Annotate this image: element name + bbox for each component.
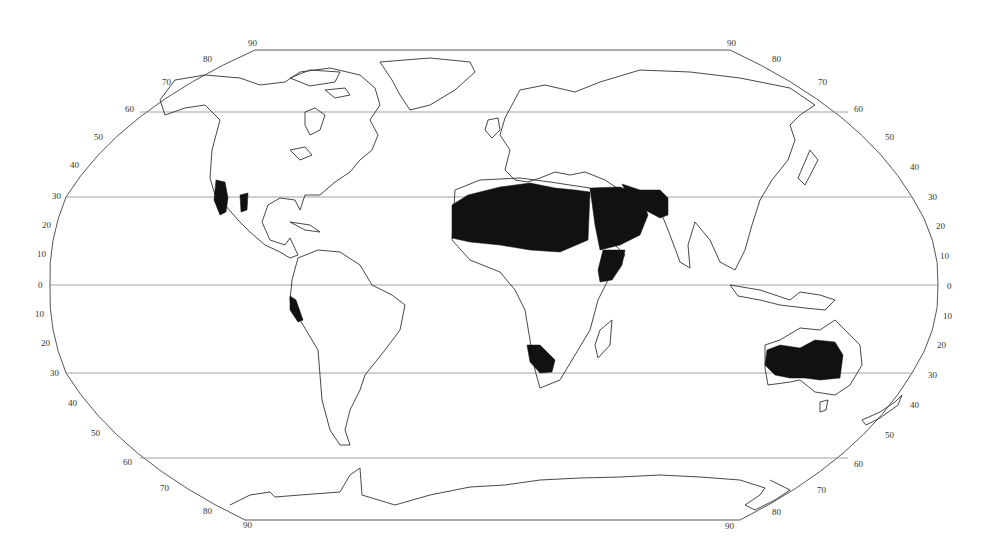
svg-text:80: 80 xyxy=(772,507,782,517)
svg-text:40: 40 xyxy=(70,160,80,170)
svg-text:20: 20 xyxy=(936,221,946,231)
world-map: 90 80 70 60 50 40 30 20 10 0 10 20 30 40… xyxy=(0,0,986,556)
region-sahara xyxy=(452,183,590,252)
svg-text:40: 40 xyxy=(910,400,920,410)
svg-text:20: 20 xyxy=(937,340,947,350)
svg-text:20: 20 xyxy=(42,220,52,230)
svg-text:10: 10 xyxy=(940,251,950,261)
region-chihuahuan xyxy=(240,193,248,212)
coast-greenland xyxy=(380,58,475,110)
svg-text:70: 70 xyxy=(160,483,170,493)
svg-text:30: 30 xyxy=(928,370,938,380)
svg-text:80: 80 xyxy=(203,54,213,64)
svg-text:0: 0 xyxy=(947,281,952,291)
coastlines xyxy=(160,58,902,510)
svg-text:40: 40 xyxy=(910,162,920,172)
region-australia xyxy=(765,340,843,380)
svg-text:90: 90 xyxy=(725,521,735,531)
region-kalahari xyxy=(527,345,555,373)
region-sonoran xyxy=(214,180,228,215)
svg-text:50: 50 xyxy=(885,132,895,142)
coast-antarctica xyxy=(230,468,790,510)
graticule xyxy=(50,112,938,458)
svg-text:10: 10 xyxy=(35,309,45,319)
svg-text:60: 60 xyxy=(125,104,135,114)
svg-text:50: 50 xyxy=(91,428,101,438)
svg-text:30: 30 xyxy=(52,191,62,201)
svg-text:80: 80 xyxy=(203,506,213,516)
svg-text:10: 10 xyxy=(37,249,47,259)
svg-text:40: 40 xyxy=(68,398,78,408)
svg-text:70: 70 xyxy=(162,77,172,87)
svg-text:90: 90 xyxy=(248,38,258,48)
svg-text:60: 60 xyxy=(854,459,864,469)
svg-text:30: 30 xyxy=(928,192,938,202)
svg-text:80: 80 xyxy=(772,54,782,64)
svg-text:90: 90 xyxy=(727,38,737,48)
svg-text:30: 30 xyxy=(50,368,60,378)
coast-south-america xyxy=(290,250,405,445)
svg-text:10: 10 xyxy=(943,311,953,321)
shaded-regions xyxy=(214,180,843,380)
svg-text:60: 60 xyxy=(854,104,864,114)
coast-north-america xyxy=(160,68,380,258)
svg-text:60: 60 xyxy=(123,457,133,467)
svg-text:20: 20 xyxy=(41,338,51,348)
region-somalia xyxy=(598,250,625,282)
svg-text:50: 50 xyxy=(94,132,104,142)
svg-text:90: 90 xyxy=(243,520,253,530)
svg-text:0: 0 xyxy=(38,280,43,290)
svg-text:50: 50 xyxy=(885,430,895,440)
svg-text:70: 70 xyxy=(817,485,827,495)
region-atacama xyxy=(290,296,303,322)
svg-text:70: 70 xyxy=(818,77,828,87)
